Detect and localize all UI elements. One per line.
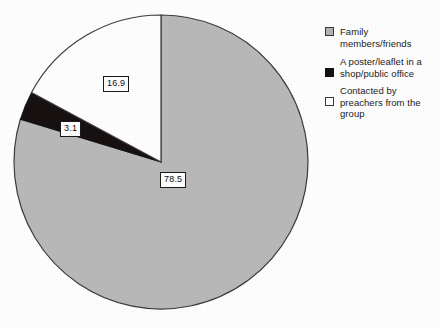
legend-item-poster-leaflet[interactable]: A poster/leaflet in a shop/public office [325, 56, 441, 79]
pie-chart-graphic [0, 0, 320, 328]
pie-value-label-family-members-friends: 78.5 [160, 172, 186, 188]
legend-item-label: Family members/friends [340, 26, 441, 49]
legend-item-label: A poster/leaflet in a shop/public office [340, 56, 441, 79]
pie-value-label-contacted-by-preachers: 16.9 [103, 76, 129, 92]
legend-item-contacted-by-preachers[interactable]: Contacted by preachers from the group [325, 85, 441, 120]
white-swatch-icon [325, 97, 334, 106]
black-swatch-icon [325, 68, 334, 77]
legend-item-label: Contacted by preachers from the group [340, 85, 441, 120]
pie-value-label-poster-leaflet: 3.1 [60, 121, 81, 137]
chart-legend: Family members/friends A poster/leaflet … [325, 26, 441, 127]
pie-chart-area: 16.9 3.1 78.5 [0, 0, 320, 328]
gray-swatch-icon [325, 27, 334, 36]
legend-item-family-members-friends[interactable]: Family members/friends [325, 26, 441, 49]
